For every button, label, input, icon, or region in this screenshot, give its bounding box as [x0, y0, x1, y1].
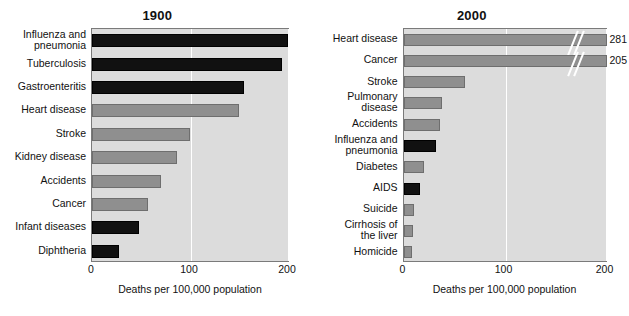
- bar: [92, 104, 239, 117]
- panel-2000: 2000 Heart diseaseCancerStrokePulmonary …: [315, 0, 629, 316]
- y-axis-label: Stroke: [367, 76, 397, 87]
- y-axis-label: Infant diseases: [15, 221, 86, 232]
- x-axis-tick-label: 0: [88, 263, 94, 275]
- y-axis-label: Diphtheria: [38, 245, 86, 256]
- bar: [92, 151, 177, 164]
- plot-area-1900: [91, 28, 289, 262]
- bar-value-label: 205: [610, 54, 628, 66]
- y-axis-label: Tuberculosis: [27, 58, 86, 69]
- y-axis-label: Homicide: [354, 246, 398, 257]
- y-axis-label: Influenza and pneumonia: [334, 134, 397, 156]
- y-axis-label: Influenza and pneumonia: [23, 29, 86, 51]
- y-axis-label: Accidents: [352, 118, 398, 129]
- y-axis-label: Pulmonary disease: [347, 91, 397, 113]
- x-axis-ticks-2000: 0100200: [403, 263, 607, 277]
- bar: [404, 140, 436, 152]
- bar: [404, 225, 413, 237]
- y-axis-label: Heart disease: [21, 104, 86, 115]
- two-panel-bar-chart-figure: 1900 Influenza and pneumoniaTuberculosis…: [0, 0, 629, 316]
- bar: [92, 245, 119, 258]
- y-axis-label: Cancer: [364, 54, 398, 65]
- y-axis-label: Suicide: [363, 203, 397, 214]
- bar-series-2000: [404, 29, 606, 261]
- y-axis-label: Stroke: [56, 128, 86, 139]
- bar: [404, 55, 607, 67]
- bar-value-label: 281: [610, 33, 628, 45]
- bar: [92, 198, 148, 211]
- y-axis-label: Heart disease: [333, 33, 398, 44]
- panel-title-1900: 1900: [0, 8, 315, 23]
- bar-series-1900: [92, 29, 288, 261]
- bar: [404, 76, 466, 88]
- bar: [92, 128, 190, 141]
- x-axis-tick-label: 200: [596, 263, 614, 275]
- bar: [404, 119, 440, 131]
- y-axis-label: Cirrhosis of the liver: [344, 219, 397, 241]
- bar: [404, 34, 607, 46]
- x-axis-title-1900: Deaths per 100,000 population: [70, 283, 310, 295]
- y-axis-labels-2000: Heart diseaseCancerStrokePulmonary disea…: [315, 28, 398, 262]
- y-axis-label: Gastroenteritis: [18, 81, 86, 92]
- y-axis-label: Accidents: [40, 175, 86, 186]
- bar: [404, 97, 442, 109]
- bar: [404, 183, 420, 195]
- x-axis-tick-label: 100: [495, 263, 513, 275]
- y-axis-label: AIDS: [373, 182, 398, 193]
- x-axis-tick-label: 0: [400, 263, 406, 275]
- gridline-200-1900: [288, 29, 289, 261]
- panel-1900: 1900 Influenza and pneumoniaTuberculosis…: [0, 0, 315, 316]
- y-axis-label: Diabetes: [356, 161, 397, 172]
- x-axis-tick-label: 200: [278, 263, 296, 275]
- bar: [404, 161, 424, 173]
- bar: [92, 175, 161, 188]
- x-axis-tick-label: 100: [180, 263, 198, 275]
- bar: [92, 81, 244, 94]
- plot-area-2000: [403, 28, 607, 262]
- x-axis-title-2000: Deaths per 100,000 population: [383, 283, 627, 295]
- panel-title-2000: 2000: [315, 8, 629, 23]
- bar: [404, 204, 414, 216]
- y-axis-label: Cancer: [52, 198, 86, 209]
- y-axis-labels-1900: Influenza and pneumoniaTuberculosisGastr…: [0, 28, 86, 262]
- x-axis-ticks-1900: 0100200: [91, 263, 289, 277]
- bar: [92, 221, 139, 234]
- y-axis-label: Kidney disease: [15, 151, 86, 162]
- bar: [404, 246, 412, 258]
- bar: [92, 58, 282, 71]
- bar: [92, 34, 288, 47]
